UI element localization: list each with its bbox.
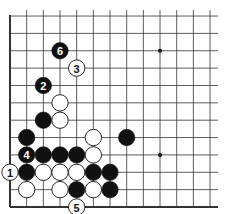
move-number-label: 3 — [74, 63, 80, 75]
black-stone-disc — [18, 164, 34, 180]
black-stone-disc — [52, 147, 68, 163]
white-stone-disc — [52, 112, 68, 128]
black-stone-disc — [102, 164, 118, 180]
black-stone-disc — [118, 129, 134, 145]
black-stone — [68, 147, 84, 163]
white-stone-disc — [68, 164, 84, 180]
white-stone-move-1: 1 — [2, 164, 18, 180]
move-number-label: 2 — [40, 80, 46, 92]
white-stone-move-3: 3 — [68, 60, 84, 76]
move-number-label: 6 — [57, 45, 63, 57]
white-stone-disc — [18, 181, 34, 197]
black-stone-disc — [85, 164, 101, 180]
white-stone — [85, 181, 101, 197]
white-stone — [35, 164, 51, 180]
black-stone — [102, 181, 118, 197]
black-stone — [68, 181, 84, 197]
white-stone-move-5: 5 — [68, 199, 84, 214]
black-stone-disc — [102, 181, 118, 197]
white-stone-disc — [85, 181, 101, 197]
black-stone-move-2: 2 — [35, 77, 51, 93]
black-stone-disc — [68, 147, 84, 163]
black-stone-move-4: 4 — [18, 147, 34, 163]
move-number-label: 1 — [7, 167, 13, 179]
black-stone-disc — [35, 147, 51, 163]
move-number-label: 5 — [74, 202, 80, 214]
black-stone-move-6: 6 — [52, 43, 68, 59]
white-stone-disc — [52, 181, 68, 197]
black-stone — [35, 112, 51, 128]
black-stone — [118, 129, 134, 145]
white-stone-disc — [52, 164, 68, 180]
move-number-label: 4 — [24, 149, 31, 161]
go-board: 632415 — [0, 0, 228, 214]
black-stone — [18, 129, 34, 145]
white-stone — [85, 129, 101, 145]
white-stone-disc — [85, 129, 101, 145]
black-stone — [102, 164, 118, 180]
white-stone — [52, 164, 68, 180]
white-stone — [52, 112, 68, 128]
white-stone — [68, 164, 84, 180]
black-stone — [52, 147, 68, 163]
star-point — [158, 153, 162, 157]
star-point — [158, 49, 162, 53]
black-stone-disc — [68, 181, 84, 197]
white-stone — [18, 181, 34, 197]
white-stone — [52, 95, 68, 111]
white-stone — [85, 147, 101, 163]
white-stone-disc — [52, 95, 68, 111]
white-stone-disc — [35, 164, 51, 180]
black-stone — [85, 164, 101, 180]
black-stone-disc — [35, 112, 51, 128]
white-stone — [52, 181, 68, 197]
black-stone — [18, 164, 34, 180]
black-stone-disc — [18, 129, 34, 145]
black-stone — [35, 147, 51, 163]
white-stone-disc — [85, 147, 101, 163]
